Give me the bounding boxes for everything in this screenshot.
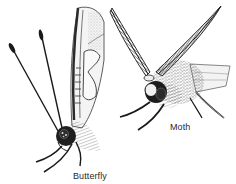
moth-drawing bbox=[110, 6, 230, 130]
butterfly-antennae bbox=[7, 29, 62, 131]
butterfly-wing bbox=[71, 7, 104, 128]
butterfly-legs bbox=[36, 142, 81, 172]
moth-label: Moth bbox=[170, 122, 190, 132]
butterfly-label: Butterfly bbox=[73, 171, 107, 181]
illustration-svg bbox=[0, 0, 236, 184]
butterfly-moth-illustration: Butterfly Moth bbox=[0, 0, 236, 184]
butterfly-drawing bbox=[7, 7, 104, 172]
